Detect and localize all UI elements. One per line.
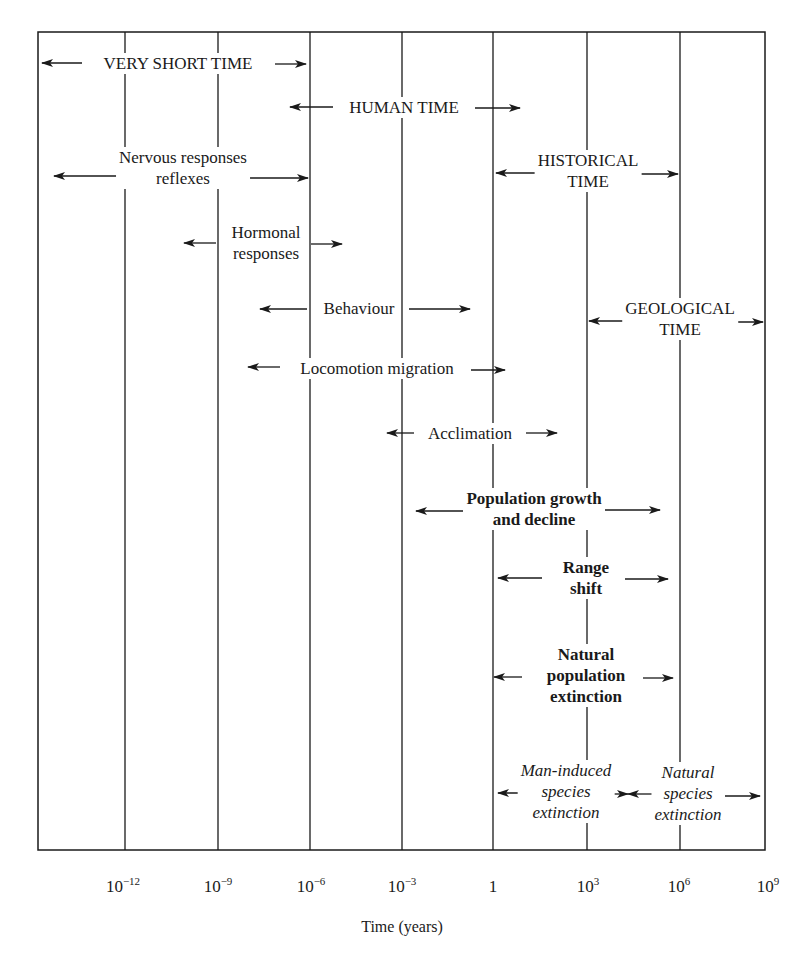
natsp-line-3: extinction — [654, 804, 721, 825]
historical-line-2: TIME — [538, 171, 639, 192]
range-label-population-growth: Population growth and decline — [463, 488, 604, 530]
man-line-2: species — [521, 781, 612, 802]
natpop-line-1: Natural — [547, 644, 625, 665]
geological-line-1: GEOLOGICAL — [625, 298, 735, 319]
population-line-2: and decline — [466, 509, 601, 530]
range-label-very-short-time: VERY SHORT TIME — [101, 53, 256, 74]
range-label-historical-time: HISTORICAL TIME — [535, 150, 642, 192]
natpop-line-3: extinction — [547, 686, 625, 707]
hormonal-line-1: Hormonal — [232, 222, 301, 243]
historical-line-1: HISTORICAL — [538, 150, 639, 171]
hormonal-line-2: responses — [232, 243, 301, 264]
range-label-behaviour: Behaviour — [321, 298, 398, 319]
man-line-1: Man-induced — [521, 760, 612, 781]
nervous-line-2: reflexes — [119, 168, 247, 189]
man-line-3: extinction — [521, 802, 612, 823]
nervous-line-1: Nervous responses — [119, 147, 247, 168]
range-label-range-shift: Range shift — [560, 557, 612, 599]
natsp-line-2: species — [654, 783, 721, 804]
x-tick-label: 10−6 — [297, 875, 326, 897]
range-line-2: shift — [563, 578, 609, 599]
x-axis-title: Time (years) — [361, 918, 443, 936]
x-tick-label: 10−12 — [106, 875, 140, 897]
range-label-human-time: HUMAN TIME — [346, 97, 462, 118]
x-tick-label: 10−9 — [204, 875, 233, 897]
range-label-acclimation: Acclimation — [425, 423, 515, 444]
geological-line-2: TIME — [625, 319, 735, 340]
x-tick-label: 103 — [577, 875, 600, 897]
x-tick-label: 106 — [668, 875, 691, 897]
natpop-line-2: population — [547, 665, 625, 686]
range-label-locomotion-migration: Locomotion migration — [297, 358, 456, 379]
range-label-man-induced-extinction: Man-induced species extinction — [518, 760, 615, 823]
population-line-1: Population growth — [466, 488, 601, 509]
x-tick-label: 109 — [757, 875, 780, 897]
range-label-hormonal-responses: Hormonal responses — [229, 222, 304, 264]
x-tick-label: 1 — [489, 875, 498, 897]
range-label-nervous-responses: Nervous responses reflexes — [116, 147, 250, 189]
range-label-natural-species-extinction: Natural species extinction — [651, 762, 724, 825]
natsp-line-1: Natural — [654, 762, 721, 783]
range-line-1: Range — [563, 557, 609, 578]
range-label-geological-time: GEOLOGICAL TIME — [622, 298, 738, 340]
x-tick-label: 10−3 — [388, 875, 417, 897]
range-label-natural-population-extinction: Natural population extinction — [544, 644, 628, 707]
